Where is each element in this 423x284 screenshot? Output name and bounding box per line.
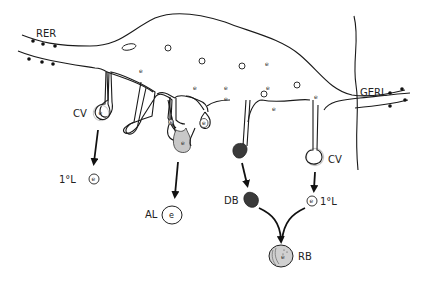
residual-body: e: [269, 245, 293, 267]
enzyme-marker: e: [202, 119, 206, 126]
enzyme-marker: e: [193, 84, 197, 91]
enzyme-marker: e: [170, 118, 174, 125]
dense-body-budding: [233, 100, 250, 158]
label-autophagic-lysosome: AL: [145, 209, 158, 220]
label-dense-body: DB: [224, 195, 239, 206]
arrow-dense-body-to-residual: [259, 208, 281, 240]
arrow-cv-to-primary-lysosome-left: [94, 130, 98, 162]
lysosome-formation-diagram: e e e e e e e e e e e e: [0, 0, 423, 284]
enzyme-marker: e: [169, 211, 174, 220]
label-primary-lysosome-left: 1°L: [59, 174, 76, 185]
rer-lower-membrane: [18, 51, 176, 140]
cell-membrane-vertical: [354, 16, 358, 170]
enzyme-markers-cytoplasm: e e e e e e e e: [139, 60, 318, 112]
enzyme-marker: e: [181, 139, 185, 146]
enzyme-marker: e: [224, 95, 228, 102]
coated-vesicle-right: [305, 100, 325, 167]
label-primary-lysosome-right: 1°L: [320, 196, 337, 207]
autophagic-vacuole-formation: e e e: [168, 96, 210, 153]
er-tubule-empty: [126, 82, 146, 134]
label-rer: RER: [36, 28, 56, 39]
label-gerl: GERL: [360, 87, 387, 98]
rer-upper-membrane: [22, 14, 405, 96]
arrow-cv-to-primary-lysosome-right: [314, 172, 315, 189]
enzyme-marker: e: [314, 93, 318, 100]
enzyme-marker: e: [281, 253, 285, 260]
arrow-to-dense-body: [242, 163, 247, 184]
arrow-primary-lysosome-to-residual: [282, 208, 305, 240]
label-cv-right: CV: [328, 154, 342, 165]
enzyme-marker: e: [99, 109, 103, 116]
enzyme-marker: e: [272, 105, 276, 112]
enzyme-marker: e: [139, 67, 143, 74]
label-residual-body: RB: [298, 251, 312, 262]
enzyme-marker: e: [92, 175, 96, 182]
enzyme-marker: e: [224, 84, 228, 91]
enzyme-marker: e: [266, 84, 270, 91]
arrow-to-autophagic-lysosome: [175, 162, 178, 195]
gerl-lower-membrane: [355, 100, 408, 108]
enzyme-marker: e: [265, 60, 269, 67]
enzyme-marker: e: [310, 197, 314, 204]
dense-body: [244, 192, 259, 207]
label-cv-left: CV: [73, 108, 87, 119]
